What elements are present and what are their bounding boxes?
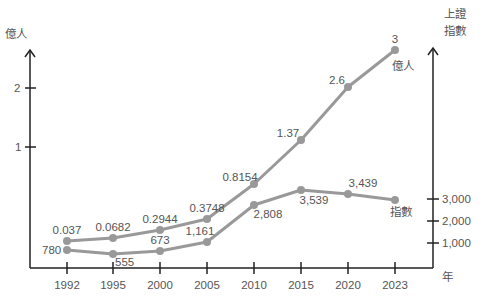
right-tick-label: 1,000 <box>442 237 471 249</box>
data-label: 1,161 <box>186 225 215 237</box>
left-axis-title: 億人 <box>5 27 28 41</box>
right-axis-title-line2: 指數 <box>444 24 467 38</box>
series-end-label: 億人 <box>392 59 415 73</box>
x-tick-label: 1995 <box>100 279 126 291</box>
data-label: 555 <box>115 256 134 268</box>
data-label: 1.37 <box>277 127 299 139</box>
data-label: 0.0682 <box>95 221 130 233</box>
left-tick-label: 1 <box>15 141 21 153</box>
left-tick-label: 2 <box>14 82 20 94</box>
data-label: 0.3748 <box>189 202 224 214</box>
x-tick-label: 2005 <box>194 279 220 291</box>
data-label: 0.8154 <box>222 171 258 183</box>
x-tick-label: 2023 <box>382 279 408 291</box>
x-axis-title: 年 <box>442 270 453 284</box>
data-label: 0.2944 <box>142 213 178 225</box>
data-label: 2,808 <box>254 208 283 220</box>
right-tick-label: 3,000 <box>442 193 471 205</box>
x-tick-label: 2010 <box>241 279 267 291</box>
data-label: 3,539 <box>300 194 329 206</box>
x-tick-label: 2020 <box>335 279 361 291</box>
x-tick-label: 2000 <box>147 279 173 291</box>
right-axis-title-line1: 上證 <box>444 7 467 21</box>
data-label: 673 <box>150 234 169 246</box>
right-tick-label: 2,000 <box>442 215 471 227</box>
series-investors: 0.037 0.0682 0.2944 0.3748 0.8154 1.37 2… <box>53 33 415 245</box>
chart-canvas: 億人 上證 指數 年 2 1 3,000 2,000 1,000 1992 19… <box>0 0 485 299</box>
data-label: 3 <box>392 33 398 45</box>
data-label: 780 <box>42 244 61 256</box>
data-label: 0.037 <box>53 224 82 236</box>
data-label: 2.6 <box>329 74 345 86</box>
data-label: 3,439 <box>349 177 378 189</box>
x-tick-label: 2015 <box>288 279 314 291</box>
x-tick-label: 1992 <box>54 279 80 291</box>
series-end-label: 指數 <box>390 205 413 219</box>
